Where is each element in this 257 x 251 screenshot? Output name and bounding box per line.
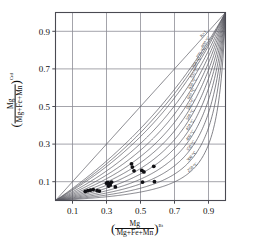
x-axis-fraction: MgMg+Fe+Mn (115, 220, 154, 237)
y-close-paren: ) (9, 80, 22, 84)
y-tick-label: 0.3 (39, 139, 51, 149)
y-axis-denominator: Mg+Fe+Mn (15, 84, 24, 123)
x-axis-numerator: Mg (115, 220, 154, 228)
x-tick-label: 0.1 (67, 206, 78, 216)
chart-figure: K=1800 °C775 °C750 °C700 °C650 °C600 °C5… (0, 0, 257, 251)
data-point (130, 165, 134, 169)
data-point (152, 164, 156, 168)
data-point (132, 169, 136, 173)
data-point (107, 184, 111, 188)
y-tick-label: 0.5 (39, 102, 51, 112)
data-point (141, 180, 145, 184)
y-axis-superscript: Crd (9, 73, 14, 80)
data-point (153, 180, 157, 184)
y-open-paren: ( (9, 123, 22, 127)
x-axis-title: (MgMg+Fe+Mn)Bt (72, 220, 202, 237)
y-axis-title: (MgMg+Fe+Mn)Crd (7, 57, 24, 143)
x-axis-denominator: Mg+Fe+Mn (115, 228, 154, 237)
data-point (142, 170, 146, 174)
data-point (97, 189, 101, 193)
y-axis-fraction: MgMg+Fe+Mn (7, 84, 24, 123)
x-tick-label: 0.5 (135, 206, 147, 216)
y-tick-label: 0.1 (39, 177, 50, 187)
data-point (130, 162, 134, 166)
x-axis-superscript: Bt (159, 223, 163, 228)
y-axis-numerator: Mg (7, 84, 15, 123)
x-tick-label: 0.9 (203, 206, 215, 216)
data-point (91, 188, 95, 192)
x-tick-label: 0.3 (101, 206, 113, 216)
data-point (110, 180, 114, 184)
data-point (113, 185, 117, 189)
y-tick-label: 0.9 (39, 27, 51, 37)
geothermometer-plot: K=1800 °C775 °C750 °C700 °C650 °C600 °C5… (0, 0, 257, 251)
x-tick-label: 0.7 (169, 206, 181, 216)
y-tick-label: 0.7 (39, 64, 51, 74)
